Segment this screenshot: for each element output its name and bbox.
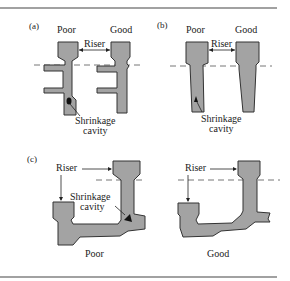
arrowhead-right-icon	[106, 48, 110, 52]
poor-casting-shape	[44, 42, 78, 115]
panel-c: (c) Riser Shrinkage cavity Poor Riser Go…	[27, 154, 280, 259]
arrowhead-icon	[186, 198, 190, 202]
cavity-label: cavity	[209, 123, 233, 134]
panel-b-good-caption: Good	[235, 24, 257, 35]
riser-label: Riser	[211, 38, 233, 49]
panel-c-label: (c)	[27, 154, 37, 164]
cavity-label: cavity	[80, 201, 104, 212]
arrowhead-icon	[59, 197, 63, 201]
panel-a-label: (a)	[29, 21, 39, 31]
panel-a-good-caption: Good	[110, 24, 132, 35]
good-casting-shape	[236, 42, 259, 112]
shrinkage-cavity-marker	[67, 98, 72, 105]
panel-a: (a) Poor Good Riser Shrinkage cavity	[29, 21, 140, 136]
panel-b: (b) Poor Good Riser Shrinkage cavity	[157, 20, 272, 134]
riser-label-left: Riser	[56, 162, 78, 173]
arrowhead-icon	[233, 167, 237, 171]
good-casting-shape	[97, 42, 130, 113]
cavity-label: cavity	[83, 125, 107, 136]
panel-c-good-caption: Good	[207, 248, 229, 259]
riser-label: Riser	[84, 38, 106, 49]
panel-c-poor-caption: Poor	[85, 248, 105, 259]
arrowhead-left-icon	[79, 48, 83, 52]
panel-b-poor-caption: Poor	[186, 24, 206, 35]
panel-a-poor-caption: Poor	[57, 24, 77, 35]
arrowhead-icon	[108, 167, 112, 171]
riser-label-left: Riser	[185, 162, 207, 173]
panel-b-label: (b)	[157, 20, 168, 30]
casting-design-figure: (a) Poor Good Riser Shrinkage cavity (b)…	[0, 0, 290, 281]
